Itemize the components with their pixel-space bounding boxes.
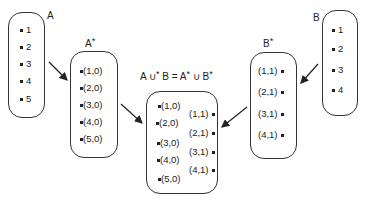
arrow-b-star-to-union — [222, 107, 247, 127]
arrows — [0, 0, 365, 204]
arrow-a-star-to-union — [121, 104, 142, 123]
arrow-a-to-a-star — [49, 62, 67, 80]
arrow-b-to-b-star — [301, 64, 318, 83]
